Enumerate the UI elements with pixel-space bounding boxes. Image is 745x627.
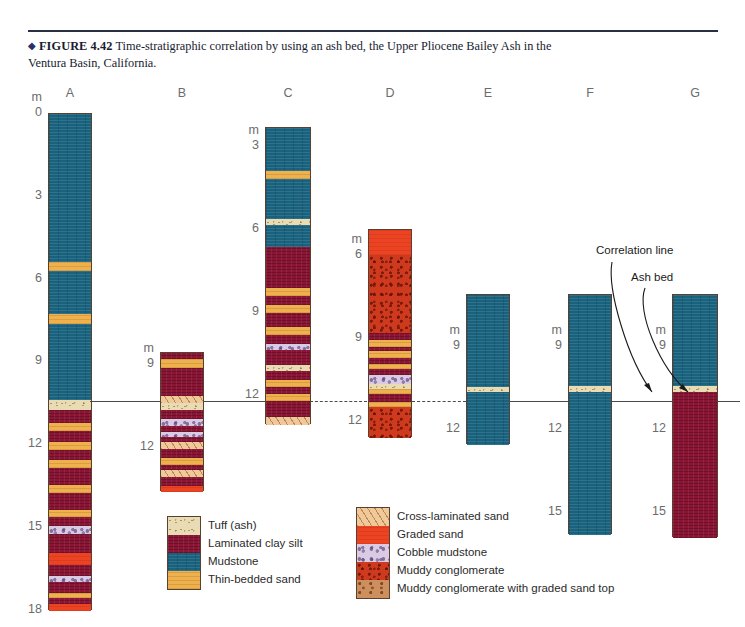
depth-value: 12 (652, 421, 666, 435)
depth-label-A-12: 12 (16, 436, 42, 450)
bed-xlam (266, 417, 310, 424)
legend-label-claysilt: Laminated clay silt (208, 534, 303, 552)
diamond-icon: ◆ (28, 40, 36, 51)
depth-value: 12 (446, 421, 460, 435)
legend-label-thinsand: Thin-bedded sand (208, 570, 303, 588)
depth-value: 15 (28, 519, 42, 533)
bed-claysilt (49, 468, 91, 485)
legend-label-stack: Tuff (ash)Laminated clay siltMudstoneThi… (208, 516, 303, 588)
bed-xlam (161, 396, 203, 403)
depth-label-C-12: 12 (233, 387, 259, 401)
correlation-line-segment-1 (90, 401, 161, 402)
depth-label-B-12: 12 (128, 439, 154, 453)
bed-mudstone (266, 225, 310, 247)
legend-swatch-tuff (168, 517, 200, 535)
legend-swatch-conglomgraded (357, 580, 389, 598)
depth-label-A-18: 18 (16, 602, 42, 616)
depth-label-D-6: m6 (336, 247, 362, 261)
bed-xlam (161, 470, 203, 477)
bed-claysilt (161, 410, 203, 419)
bed-thinsand (49, 460, 91, 467)
legend-swatch-claysilt (168, 535, 200, 553)
legend-label-gradedsand: Graded sand (397, 525, 614, 543)
strat-column-D[interactable] (368, 229, 412, 437)
depth-value: 9 (659, 338, 666, 352)
bed-mudstone (266, 179, 310, 219)
depth-label-B-9: m9 (128, 356, 154, 370)
depth-label-D-9: 9 (336, 330, 362, 344)
legend-swatch-gradedsand (357, 526, 389, 544)
legend-label-muddyconglom: Muddy conglomerate (397, 561, 614, 579)
bed-thinsand (266, 327, 310, 335)
depth-unit-G: m (656, 323, 666, 337)
depth-value: 3 (35, 188, 42, 202)
bed-mudstone (49, 324, 91, 399)
annotation-ash-bed: Ash bed (631, 271, 673, 283)
depth-value: 18 (28, 602, 42, 616)
column-header-A: A (55, 86, 85, 100)
bed-tuff (161, 403, 203, 410)
bed-thinsand (49, 485, 91, 493)
bed-claysilt (49, 431, 91, 443)
depth-label-A-3: 3 (16, 188, 42, 202)
figure-caption: ◆FIGURE 4.42 Time-stratigraphic correlat… (28, 38, 588, 71)
correlation-line-segment-2 (203, 401, 266, 402)
bed-claysilt (161, 477, 203, 486)
top-rule (28, 30, 718, 32)
legend-swatch-stack (356, 507, 390, 599)
depth-label-E-12: 12 (434, 421, 460, 435)
depth-unit-F: m (552, 323, 562, 337)
depth-label-D-12: 12 (336, 413, 362, 427)
bed-claysilt (161, 449, 203, 458)
figure-root: ◆FIGURE 4.42 Time-stratigraphic correlat… (0, 0, 745, 627)
bed-claysilt (49, 410, 91, 423)
bed-gradedsand (49, 553, 91, 565)
legend-swatch-xlam (357, 508, 389, 526)
bed-claysilt (266, 387, 310, 394)
legend-label-xlam: Cross-laminated sand (397, 507, 614, 525)
legend-swatch-mudstone (168, 553, 200, 571)
bed-claysilt (266, 296, 310, 305)
strat-column-B[interactable] (160, 352, 204, 491)
bed-mudstone (266, 128, 310, 171)
correlation-line-segment-4 (412, 401, 466, 402)
bed-claysilt (266, 247, 310, 288)
correlation-line-segment-3 (310, 401, 367, 402)
bed-claysilt (49, 534, 91, 553)
bed-claysilt (673, 392, 717, 538)
bed-xlam (161, 442, 203, 449)
legend-label-cobblemud: Cobble mudstone (397, 543, 614, 561)
depth-label-A-0: m0 (16, 105, 42, 119)
depth-value: 9 (453, 338, 460, 352)
strat-column-C[interactable] (265, 127, 311, 424)
depth-label-G-15: 15 (640, 504, 666, 518)
depth-value: 12 (245, 387, 259, 401)
bed-mudstone (49, 271, 91, 314)
depth-value: 6 (355, 247, 362, 261)
bed-thinsand (369, 340, 411, 347)
legend-swatch-muddyconglom (357, 562, 389, 580)
column-header-D: D (375, 86, 405, 100)
column-header-C: C (273, 86, 303, 100)
legend-swatch-stack (167, 516, 201, 590)
strat-column-G[interactable] (672, 294, 718, 537)
strat-column-F[interactable] (568, 294, 612, 534)
depth-label-A-6: 6 (16, 271, 42, 285)
bed-gradedsand (49, 604, 91, 611)
bed-claysilt (49, 450, 91, 460)
bed-mudstone (467, 392, 509, 445)
strat-column-E[interactable] (466, 294, 510, 444)
legend-swatch-cobblemud (357, 544, 389, 562)
strat-column-A[interactable] (48, 113, 92, 610)
bed-mudstone (569, 295, 611, 386)
column-header-F: F (575, 86, 605, 100)
bed-claysilt (49, 582, 91, 592)
column-header-E: E (473, 86, 503, 100)
depth-label-G-9: m9 (640, 338, 666, 352)
depth-value: 12 (28, 436, 42, 450)
depth-label-C-6: 6 (233, 221, 259, 235)
bed-tuff (49, 400, 91, 410)
depth-label-F-9: m9 (536, 338, 562, 352)
bed-gradedsand (161, 486, 203, 492)
bed-claysilt (49, 565, 91, 576)
